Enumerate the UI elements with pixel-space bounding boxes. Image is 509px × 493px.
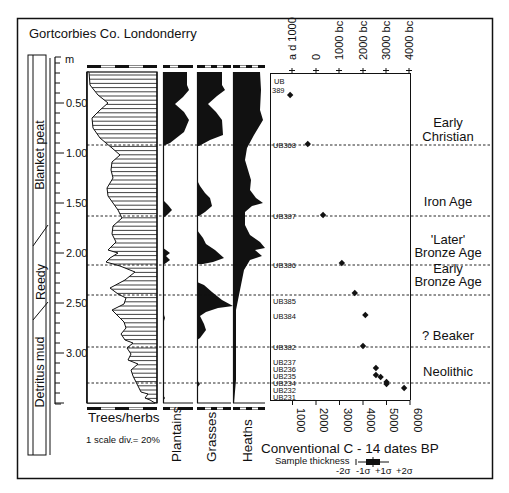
sigma-label: +1σ (375, 465, 392, 476)
grasses-column: Grasses (197, 65, 233, 462)
point-label: UB384 (273, 312, 296, 321)
sigma-label: +2σ (396, 465, 413, 476)
date-axis-title: Conventional C - 14 dates BP (261, 441, 439, 456)
bottom-tick-label: 2000 (318, 408, 330, 432)
bottom-tick-label: 6000 (412, 408, 424, 432)
period-label: Iron Age (424, 194, 472, 209)
bottom-tick-label: 4000 (365, 408, 377, 432)
date-plot: a d 1000 0 1000 bc 2000 bc 3000 bc 4000 … (261, 17, 439, 476)
point-label: UB385 (273, 297, 296, 306)
radiocarbon-points: UB389UB368UB387UB386UB385UB384UB382UB237… (272, 77, 407, 402)
scale-bar (87, 65, 157, 68)
point-label: UB387 (273, 212, 296, 221)
sigma-label: -2σ (336, 465, 350, 476)
scale-note: 1 scale div.= 20% (86, 434, 161, 445)
sigma-label: -1σ (356, 465, 370, 476)
strat-unit-detritus-mud: Detritus mud (33, 337, 47, 408)
depth-tick-label: 1.00 (66, 147, 87, 159)
top-tick-label: 2000 bc (357, 20, 369, 60)
column-label-trees-herbs: Trees/herbs (88, 410, 160, 425)
point-label: UB382 (273, 343, 296, 352)
stratigraphy-column: Blanket peat Reedy Detritus mud (28, 55, 50, 455)
depth-tick-label: 0.50 (66, 97, 87, 109)
plantains-column: Plantains (163, 65, 193, 462)
top-tick-label: 3000 bc (380, 20, 392, 60)
top-tick-label: 1000 bc (333, 20, 345, 60)
figure-title: Gortcorbies Co. Londonderry (29, 26, 197, 41)
period-label: EarlyChristian (422, 115, 473, 144)
top-tick-label: 0 (310, 54, 322, 60)
column-label-heaths: Heaths (240, 419, 255, 462)
point-label: UB368 (273, 141, 296, 150)
depth-tick-label: 3.00 (66, 347, 87, 359)
depth-unit-label: m (65, 53, 74, 65)
period-label: Neolithic (423, 364, 473, 379)
strat-unit-blanket-peat: Blanket peat (33, 120, 47, 190)
svg-text:UB: UB (274, 77, 284, 86)
top-tick-label: a d 1000 (286, 17, 298, 60)
heaths-column: Heaths (233, 65, 265, 462)
depth-axis: m 0.50 1.00 1.50 2.00 2.50 3.00 (55, 53, 87, 404)
point-label: UB231 (273, 393, 296, 402)
top-tick-label: 4000 bc (403, 20, 415, 60)
period-labels: EarlyChristian Iron Age 'Later'Bronze Ag… (414, 115, 481, 379)
trees-herbs-column: Trees/herbs 1 scale div.= 20% (86, 65, 161, 445)
column-label-grasses: Grasses (204, 411, 219, 462)
pollen-diagram: Gortcorbies Co. Londonderry Blanket peat… (0, 0, 509, 493)
point-label: UB386 (273, 261, 296, 270)
depth-tick-label: 1.50 (66, 197, 87, 209)
depth-tick-label: 2.00 (66, 247, 87, 259)
bottom-tick-label: 5000 (388, 408, 400, 432)
strat-unit-reedy: Reedy (34, 263, 48, 300)
bottom-tick-label: 3000 (342, 408, 354, 432)
period-label: 'Later'Bronze Age (414, 232, 481, 260)
period-label: ? Beaker (422, 328, 475, 343)
svg-text:389: 389 (272, 86, 285, 95)
column-label-plantains: Plantains (169, 406, 184, 462)
bottom-tick-label: 1000 (295, 408, 307, 432)
depth-tick-label: 2.50 (66, 297, 87, 309)
